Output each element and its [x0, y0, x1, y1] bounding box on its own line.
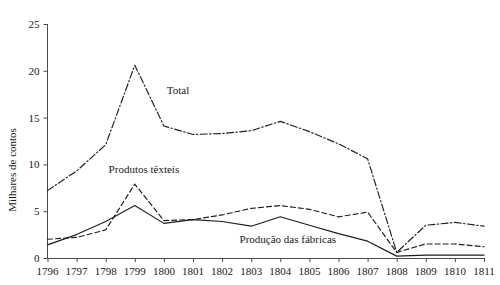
chart-axes: [48, 24, 485, 259]
x-tick-label: 1801: [182, 265, 204, 277]
y-tick-label: 0: [34, 252, 40, 264]
series-label-produ-o-das-f-bricas: Produção das fábricas: [240, 233, 337, 245]
y-tick-label: 5: [34, 205, 40, 217]
x-tick-label: 1807: [357, 265, 380, 277]
x-tick-label: 1800: [153, 265, 176, 277]
y-axis-title: Milhares de contos: [6, 128, 18, 212]
series-label-total: Total: [167, 84, 189, 96]
x-tick-label: 1802: [211, 265, 233, 277]
y-tick-label: 15: [29, 112, 41, 124]
x-tick-label: 1810: [444, 265, 467, 277]
y-tick-label: 20: [29, 65, 41, 77]
y-axis-ticks: 0510152025: [29, 18, 48, 264]
x-tick-label: 1803: [240, 265, 263, 277]
y-tick-label: 10: [29, 158, 41, 170]
x-tick-label: 1796: [37, 265, 60, 277]
figure-caption-strip: [0, 0, 500, 14]
x-tick-label: 1797: [66, 265, 89, 277]
x-tick-label: 1804: [269, 265, 292, 277]
line-chart: 0510152025 17961797179817991800180118021…: [0, 0, 500, 285]
chart-series-labels: TotalProdutos têxteisProdução das fábric…: [109, 84, 336, 245]
x-tick-label: 1809: [415, 265, 438, 277]
x-tick-label: 1806: [328, 265, 351, 277]
x-tick-label: 1808: [386, 265, 409, 277]
chart-figure: 0510152025 17961797179817991800180118021…: [0, 0, 500, 285]
x-tick-label: 1811: [473, 265, 495, 277]
series-line-produ-o-das-f-bricas: [48, 206, 485, 257]
series-label-produtos-t-xteis: Produtos têxteis: [109, 163, 180, 175]
x-axis-ticks: 1796179717981799180018011802180318041805…: [37, 258, 495, 277]
series-line-total: [48, 65, 485, 252]
x-tick-label: 1799: [124, 265, 147, 277]
y-tick-label: 25: [29, 18, 41, 30]
chart-series-group: [48, 65, 485, 256]
x-tick-label: 1805: [298, 265, 321, 277]
x-tick-label: 1798: [95, 265, 118, 277]
